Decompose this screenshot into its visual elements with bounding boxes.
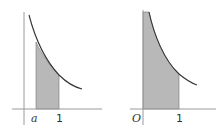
left-label-1: 1	[56, 112, 63, 125]
left-graph: a 1	[12, 12, 102, 125]
left-label-a: a	[31, 112, 38, 125]
right-graph: O 1	[130, 10, 216, 125]
right-shaded-area	[143, 12, 179, 109]
right-label-origin: O	[132, 112, 141, 125]
left-shaded-area	[36, 42, 59, 109]
right-label-1: 1	[176, 112, 183, 125]
figure-canvas: a 1 O 1	[0, 0, 221, 134]
